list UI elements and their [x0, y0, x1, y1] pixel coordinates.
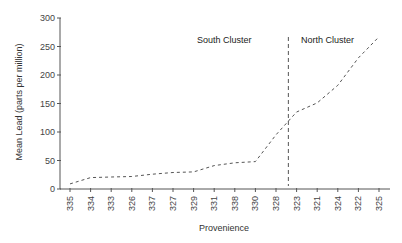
x-tick-label: 322	[353, 196, 363, 211]
x-tick-label: 338	[230, 196, 240, 211]
y-tick-label: 100	[40, 127, 55, 137]
annotations: South ClusterNorth Cluster	[197, 35, 354, 45]
x-tick-label: 335	[65, 196, 75, 211]
y-axis-title: Mean Lead (parts per million)	[14, 43, 24, 160]
x-axis: 3353343333263373273293313383303283233213…	[60, 188, 390, 211]
y-tick-label: 300	[40, 13, 55, 23]
x-tick-label: 330	[250, 196, 260, 211]
y-tick-label: 50	[45, 156, 55, 166]
data-series	[70, 37, 379, 184]
x-tick-label: 334	[86, 196, 96, 211]
y-tick-label: 250	[40, 42, 55, 52]
line-chart: 050100150200250300 335334333326337327329…	[0, 0, 402, 243]
cluster-label: South Cluster	[197, 35, 252, 45]
x-tick-label: 327	[168, 196, 178, 211]
x-tick-label: 321	[312, 196, 322, 211]
x-tick-label: 326	[127, 196, 137, 211]
y-axis: 050100150200250300	[40, 13, 61, 194]
x-tick-label: 337	[147, 196, 157, 211]
cluster-label: North Cluster	[301, 35, 354, 45]
series-line	[70, 37, 379, 184]
y-tick-label: 150	[40, 99, 55, 109]
x-tick-label: 324	[333, 196, 343, 211]
x-tick-label: 325	[374, 196, 384, 211]
x-tick-label: 329	[189, 196, 199, 211]
y-tick-label: 200	[40, 70, 55, 80]
x-tick-label: 328	[271, 196, 281, 211]
x-axis-title: Provenience	[199, 223, 249, 233]
x-tick-label: 331	[209, 196, 219, 211]
y-tick-label: 0	[50, 184, 55, 194]
x-tick-label: 323	[292, 196, 302, 211]
x-tick-label: 333	[106, 196, 116, 211]
